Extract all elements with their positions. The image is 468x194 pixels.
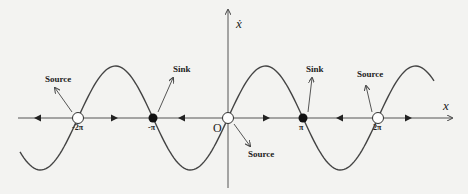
fixed-point-2pi (373, 113, 384, 124)
tick-neg-2pi: -2π (72, 123, 84, 132)
y-axis-label: ẋ (235, 16, 242, 31)
tick-neg-pi: -π (148, 123, 156, 132)
tick-2pi: 2π (373, 123, 382, 132)
phase-portrait-diagram: -2π -π π 2π x ẋ O Source Sink Source Sin… (0, 0, 468, 194)
fixed-point-neg-2pi (73, 113, 84, 124)
label-source-right: Source (357, 69, 383, 79)
annotation-arrows (55, 78, 372, 146)
label-source-origin: Source (248, 149, 274, 159)
label-sink-left: Sink (173, 64, 191, 74)
x-axis-label: x (442, 98, 449, 113)
label-source-left: Source (45, 74, 71, 84)
label-sink-right: Sink (306, 64, 324, 74)
fixed-point-neg-pi (149, 114, 158, 123)
fixed-point-pi (299, 114, 308, 123)
tick-pi: π (299, 123, 304, 132)
origin-label: O (213, 121, 222, 135)
fixed-point-zero (223, 113, 234, 124)
